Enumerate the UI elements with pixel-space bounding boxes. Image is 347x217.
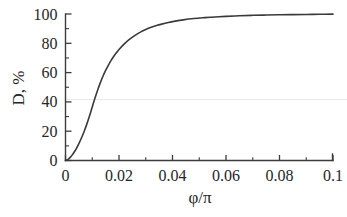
x-tick-label: 0.1	[323, 167, 343, 184]
x-tick-label: 0.04	[159, 167, 187, 184]
x-tick-label: 0.06	[212, 167, 240, 184]
x-tick-label: 0.02	[105, 167, 133, 184]
y-tick-label: 0	[50, 152, 58, 169]
y-tick-label: 20	[42, 123, 58, 140]
x-axis-title: φ/π	[188, 188, 212, 207]
x-tick-label: 0.08	[266, 167, 294, 184]
y-axis-title: D, %	[9, 71, 28, 106]
chart-figure: 020406080100 00.020.040.060.080.1 φ/π D,…	[0, 0, 347, 217]
chart-plot-area: 020406080100 00.020.040.060.080.1 φ/π D,…	[0, 0, 347, 217]
y-tick-label: 40	[42, 93, 58, 110]
y-tick-label: 60	[42, 64, 58, 81]
y-tick-label: 80	[42, 35, 58, 52]
x-tick-label: 0	[62, 167, 70, 184]
y-tick-label: 100	[34, 6, 58, 23]
